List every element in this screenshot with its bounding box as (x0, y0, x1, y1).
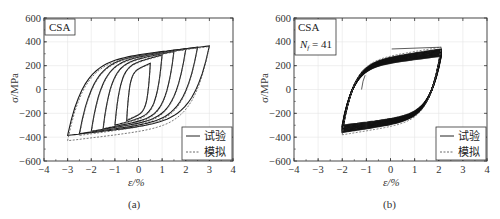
y-tick-label: −600 (19, 156, 41, 167)
annotation-label: CSA (49, 21, 70, 33)
x-tick-label: 1 (412, 164, 417, 175)
x-tick-label: −3 (62, 164, 73, 175)
hysteresis-cycle (342, 53, 441, 129)
y-tick-label: −200 (269, 108, 291, 119)
y-tick-label: 200 (25, 60, 41, 71)
y-tick-label: −400 (19, 132, 41, 143)
plot-a: −4−3−2−101234−600−400−2000200400600CSA试验… (0, 0, 250, 219)
x-tick-label: 1 (160, 164, 165, 175)
y-tick-label: 600 (275, 13, 291, 24)
hysteresis-cycle (342, 54, 441, 128)
x-tick-label: 3 (207, 164, 212, 175)
chart-panel-a: −4−3−2−101234−600−400−2000200400600CSA试验… (0, 0, 250, 219)
x-tick-label: 4 (230, 164, 236, 175)
x-tick-label: 0 (136, 164, 141, 175)
hysteresis-cycle (342, 56, 441, 125)
chart-panel-b: −4−3−2−101234−600−400−2000200400600CSANf… (250, 0, 500, 219)
legend: 试验模拟 (436, 127, 486, 160)
caption-a: (a) (128, 198, 140, 210)
x-tick-label: 4 (484, 164, 490, 175)
y-tick-label: 400 (275, 36, 291, 47)
plot-b: −4−3−2−101234−600−400−2000200400600CSANf… (250, 0, 500, 219)
y-tick-label: 0 (286, 84, 291, 95)
legend-label-experiment: 试验 (204, 129, 226, 143)
cycle-count-label: Nf = 41 (299, 38, 332, 52)
x-tick-label: 2 (183, 164, 188, 175)
hysteresis-cycle (342, 55, 441, 127)
curves (342, 47, 441, 135)
caption-b: (b) (383, 198, 396, 210)
hysteresis-cycle (342, 53, 441, 128)
y-tick-label: −200 (19, 108, 41, 119)
x-tick-label: 0 (388, 164, 393, 175)
initial-loading-curve (362, 75, 366, 89)
y-tick-label: −400 (269, 132, 291, 143)
y-axis-label-a: σ/MPa (8, 68, 20, 108)
x-axis-label-b: ε/% (383, 176, 400, 188)
y-axis-label-b: σ/MPa (258, 68, 270, 108)
legend: 试验模拟 (182, 127, 232, 160)
y-tick-label: 200 (275, 60, 291, 71)
annotation-box: CSA (45, 19, 75, 35)
x-tick-label: 2 (436, 164, 441, 175)
y-tick-label: 600 (25, 13, 41, 24)
y-tick-label: 400 (25, 36, 41, 47)
annotation-label: CSA (298, 21, 319, 33)
x-tick-label: −2 (337, 164, 348, 175)
legend-label-simulation: 模拟 (458, 145, 480, 159)
x-tick-label: −1 (109, 164, 120, 175)
hysteresis-cycle (342, 56, 441, 126)
y-tick-label: 0 (36, 84, 41, 95)
legend-label-simulation: 模拟 (204, 145, 226, 159)
x-tick-label: −3 (313, 164, 324, 175)
x-tick-label: −2 (86, 164, 97, 175)
x-tick-label: 3 (460, 164, 465, 175)
hysteresis-cycle (342, 52, 441, 129)
y-tick-label: −600 (269, 156, 291, 167)
annotation-box: CSANf = 41 (295, 19, 336, 55)
x-tick-label: −1 (361, 164, 372, 175)
legend-label-experiment: 试验 (458, 129, 480, 143)
x-axis-label-a: ε/% (128, 176, 145, 188)
